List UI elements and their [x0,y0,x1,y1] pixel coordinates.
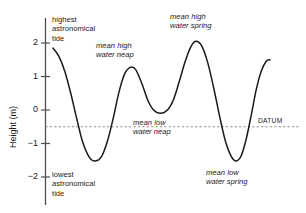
y-tick-label-2: 2 [22,37,38,47]
annotation-mean-high-water-spring: mean high water spring [170,12,212,31]
annotation-mean-high-water-neap: mean high water neap [96,41,134,60]
tide-curve-path [53,41,270,161]
datum-label: DATUM [258,117,282,124]
tidal-curve-figure: Height (m) 2 1 0 −1 −2 highest astronomi… [0,0,306,213]
y-tick-label-0: 0 [22,104,38,114]
annotation-mean-low-water-neap: mean low water neap [133,118,171,137]
annotation-highest-astronomical-tide: highest astronomical tide [52,15,95,43]
y-tick-label-neg1: −1 [16,138,38,148]
y-tick-label-1: 1 [22,71,38,81]
chart-plot-area [0,0,306,213]
annotation-lowest-astronomical-tide: lowest astronomical tide [52,170,95,198]
annotation-mean-low-water-spring: mean low water spring [206,168,248,187]
y-tick-label-neg2: −2 [16,171,38,181]
y-axis-group [41,18,50,205]
